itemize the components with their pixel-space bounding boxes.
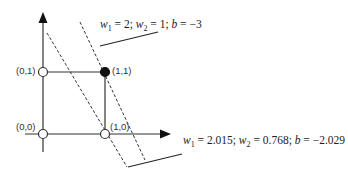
x-axis-arrowhead <box>160 130 171 139</box>
decision-boundaries <box>47 22 145 167</box>
leader-line-initial <box>100 32 158 46</box>
point-0-1 <box>39 68 48 77</box>
boundary-trained <box>47 33 127 167</box>
point-1-0 <box>101 130 110 139</box>
label-0-0: (0,0) <box>16 121 36 132</box>
point-1-1 <box>101 68 110 77</box>
label-1-0: (1,0) <box>110 121 130 132</box>
perceptron-diagram: (0,0) (1,0) (0,1) (1,1) w1 = 2; w2 = 1; … <box>0 0 348 172</box>
equation-initial: w1 = 2; w2 = 1; b = −3 <box>100 18 202 33</box>
y-axis-arrowhead <box>39 12 48 23</box>
label-0-1: (0,1) <box>16 65 36 76</box>
label-1-1: (1,1) <box>112 65 132 76</box>
leader-line-trained <box>128 154 182 167</box>
equation-trained: w1 = 2.015; w2 = 0.768; b = −2.029 <box>183 134 345 149</box>
point-0-0 <box>39 130 48 139</box>
unit-square <box>43 72 105 134</box>
